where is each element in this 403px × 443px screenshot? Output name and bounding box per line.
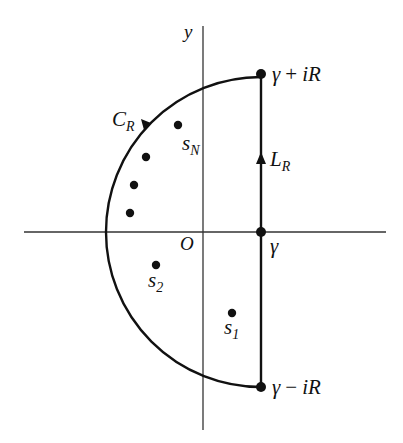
singularity-dot: [142, 153, 150, 161]
singularity-dot: [130, 181, 138, 189]
gamma-label: γ: [270, 234, 279, 258]
origin-label: O: [180, 233, 194, 254]
s-n-label: sN: [182, 131, 200, 158]
line-direction-arrow-icon: [256, 152, 266, 164]
diagram-canvas: y O CR LR γ+iR γ γ−iR sN s2 s1: [0, 0, 403, 443]
point-gamma-minus-iR: [256, 382, 266, 392]
s-2-label: s2: [148, 268, 163, 295]
singularity-s-n: [174, 121, 182, 129]
point-gamma-plus-iR: [256, 69, 266, 79]
y-axis-label: y: [182, 21, 193, 42]
point-gamma: [256, 227, 266, 237]
contour-diagram: y O CR LR γ+iR γ γ−iR sN s2 s1: [0, 0, 403, 443]
top-point-label: γ+iR: [272, 62, 321, 86]
s-1-label: s1: [224, 315, 239, 342]
arc-label: CR: [112, 107, 135, 134]
singularity-dot: [126, 209, 134, 217]
line-label: LR: [269, 147, 291, 174]
bottom-point-label: γ−iR: [272, 375, 321, 399]
